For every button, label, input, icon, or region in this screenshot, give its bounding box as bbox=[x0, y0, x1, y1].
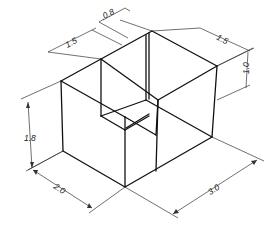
dim-label-1-5-right: 1.5 bbox=[215, 32, 230, 47]
dim-label-1-0: 1.0 bbox=[241, 62, 251, 74]
dimension-notch-width: 1.5 bbox=[48, 28, 122, 59]
dim-label-1-8: 1.8 bbox=[24, 133, 36, 143]
dimension-block-height: 1.8 bbox=[21, 81, 63, 171]
isometric-drawing: 0.8 1.5 1.5 1.0 1.8 2.0 bbox=[0, 0, 276, 229]
dimension-block-length: 3.0 bbox=[125, 137, 264, 218]
dimension-notch-offset: 0.8 bbox=[99, 6, 152, 38]
block-outline bbox=[61, 31, 217, 187]
dimension-block-depth: 2.0 bbox=[28, 151, 125, 213]
dim-label-0-8: 0.8 bbox=[101, 6, 116, 21]
dimension-notch-depth: 1.5 bbox=[152, 28, 254, 66]
dimension-notch-height: 1.0 bbox=[217, 48, 253, 100]
